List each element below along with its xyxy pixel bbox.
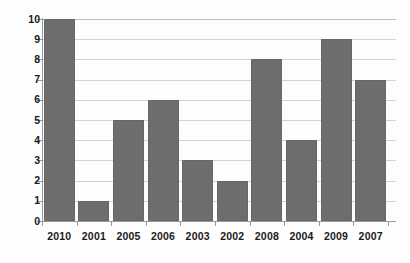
- x-axis-label-2004: 2004: [284, 231, 319, 242]
- bar-2010[interactable]: [44, 19, 75, 221]
- bar-2007[interactable]: [355, 80, 386, 221]
- x-axis-tick: [42, 222, 43, 226]
- x-axis-tick: [388, 222, 389, 226]
- bar-chart: 10 9 8 7 6 5 4 3 2 1 0 20102001200520062…: [0, 0, 410, 263]
- x-axis-tick: [319, 222, 320, 226]
- bar-2003[interactable]: [182, 160, 213, 221]
- x-axis-label-2002: 2002: [215, 231, 250, 242]
- bar-2001[interactable]: [78, 201, 109, 221]
- bar-2002[interactable]: [217, 181, 248, 221]
- x-axis-tick: [353, 222, 354, 226]
- bar-2009[interactable]: [321, 39, 352, 221]
- x-axis-tick: [180, 222, 181, 226]
- x-axis-label-2003: 2003: [180, 231, 215, 242]
- bar-2008[interactable]: [251, 59, 282, 221]
- x-axis-label-2005: 2005: [111, 231, 146, 242]
- x-axis-label-2001: 2001: [77, 231, 112, 242]
- x-axis-tick: [146, 222, 147, 226]
- bar-2006[interactable]: [148, 100, 179, 221]
- x-axis-label-2010: 2010: [42, 231, 77, 242]
- x-axis-tick: [215, 222, 216, 226]
- x-axis-tick: [284, 222, 285, 226]
- x-axis-tick: [250, 222, 251, 226]
- bars-layer: 2010200120052006200320022008200420092007: [0, 0, 410, 263]
- x-axis-label-2009: 2009: [319, 231, 354, 242]
- x-axis-label-2008: 2008: [250, 231, 285, 242]
- x-axis-tick: [111, 222, 112, 226]
- x-axis-tick: [77, 222, 78, 226]
- bar-2005[interactable]: [113, 120, 144, 221]
- x-axis-label-2007: 2007: [353, 231, 388, 242]
- bar-2004[interactable]: [286, 140, 317, 221]
- x-axis-label-2006: 2006: [146, 231, 181, 242]
